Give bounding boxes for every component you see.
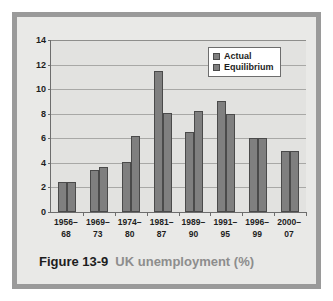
bar (217, 101, 226, 212)
x-axis-label-line1: 2000– (277, 217, 301, 227)
y-axis-tick-label: 6 (41, 134, 46, 143)
bar (131, 136, 140, 212)
x-axis-label: 1969–73 (82, 216, 114, 240)
x-axis-label-line2: 07 (273, 228, 305, 240)
bar (194, 111, 203, 212)
caption-figure-number: Figure 13-9 (39, 254, 108, 269)
bar (226, 114, 235, 212)
x-axis-label-line2: 80 (114, 228, 146, 240)
y-axis-tick-label: 0 (41, 208, 46, 217)
x-axis-label-line1: 1981– (150, 217, 174, 227)
legend-swatch-icon (213, 64, 220, 71)
bar-group (51, 40, 83, 212)
x-axis-label-line2: 87 (146, 228, 178, 240)
bar (290, 151, 299, 212)
y-axis-tick-label: 4 (41, 158, 46, 167)
bar (67, 182, 76, 212)
x-axis-label-line1: 1956– (54, 217, 78, 227)
y-axis-tick-label: 2 (41, 183, 46, 192)
x-axis-label-line2: 68 (50, 228, 82, 240)
x-axis-label-line2: 90 (178, 228, 210, 240)
bar (249, 138, 258, 212)
bar (185, 132, 194, 212)
y-axis-tick-label: 12 (36, 60, 46, 69)
x-axis-label: 1956–68 (50, 216, 82, 240)
chart-legend: ActualEquilibrium (208, 47, 281, 77)
x-axis-label-line2: 95 (209, 228, 241, 240)
bar (122, 162, 131, 212)
bar (58, 182, 67, 212)
bar (99, 167, 108, 212)
y-axis-tick-mark (48, 212, 51, 213)
x-axis-label-line2: 73 (82, 228, 114, 240)
figure-caption: Figure 13-9 UK unemployment (%) (39, 254, 254, 269)
x-axis-label-line1: 1974– (118, 217, 142, 227)
x-axis-label: 1981–87 (146, 216, 178, 240)
figure-frame: 02468101214 1956–681969–731974–801981–87… (12, 12, 321, 289)
y-axis-tick-label: 8 (41, 109, 46, 118)
x-axis-tick-mark (306, 212, 307, 216)
bar-group (179, 40, 211, 212)
bar (258, 138, 267, 212)
legend-swatch-icon (213, 53, 220, 60)
legend-item: Actual (213, 51, 274, 62)
x-axis-label: 1996–99 (241, 216, 273, 240)
y-axis-tick-label: 14 (36, 36, 46, 45)
x-axis-label-line1: 1989– (182, 217, 206, 227)
x-axis-label-line2: 99 (241, 228, 273, 240)
x-axis-label-line1: 1991– (213, 217, 237, 227)
legend-item: Equilibrium (213, 62, 274, 73)
figure-panel: 02468101214 1956–681969–731974–801981–87… (17, 17, 316, 284)
bar (281, 151, 290, 212)
x-axis-labels: 1956–681969–731974–801981–871989–901991–… (50, 216, 305, 250)
x-axis-label: 1989–90 (178, 216, 210, 240)
bar-group (147, 40, 179, 212)
x-axis-label-line1: 1969– (86, 217, 110, 227)
bar-group (115, 40, 147, 212)
bar (163, 113, 172, 213)
legend-label: Actual (224, 51, 252, 62)
x-axis-label: 1991–95 (209, 216, 241, 240)
bar-group (83, 40, 115, 212)
bar (90, 170, 99, 212)
x-axis-label-line1: 1996– (245, 217, 269, 227)
x-axis-label: 1974–80 (114, 216, 146, 240)
bar (154, 71, 163, 212)
caption-figure-title: UK unemployment (%) (115, 254, 254, 269)
y-axis-tick-label: 10 (36, 85, 46, 94)
x-axis-label: 2000–07 (273, 216, 305, 240)
legend-label: Equilibrium (224, 62, 274, 73)
